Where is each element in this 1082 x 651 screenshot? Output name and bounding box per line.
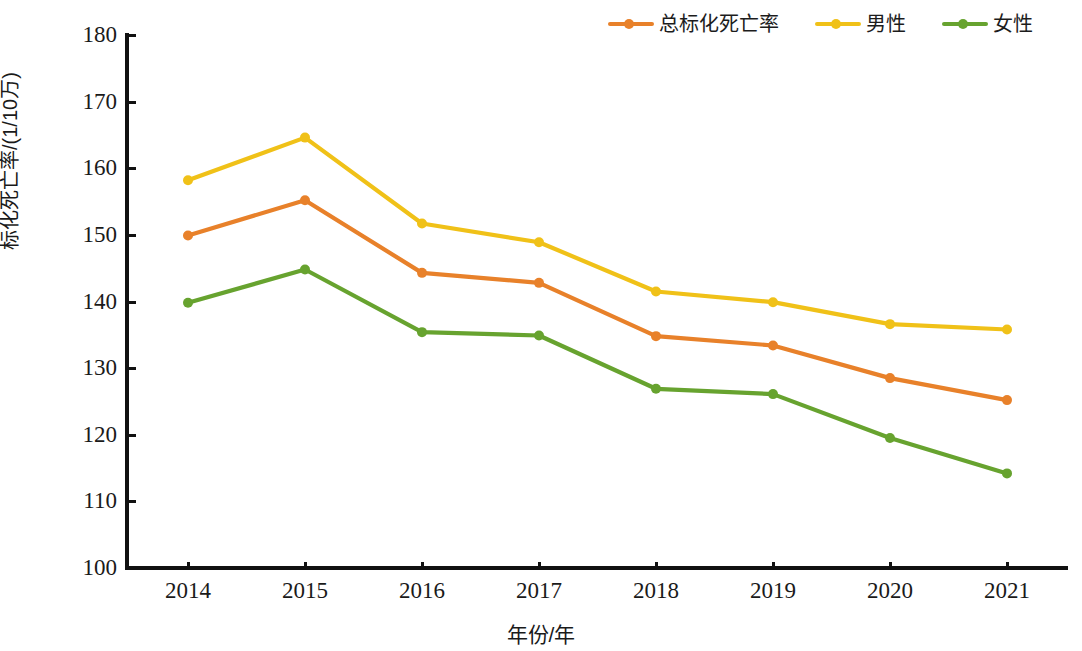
x-axis-tick-label: 2020	[840, 578, 940, 604]
y-axis-tick	[127, 301, 136, 304]
line-chart: 总标化死亡率男性女性 标化死亡率/(1/10万) 年份/年 1001101201…	[0, 0, 1082, 651]
legend-item[interactable]: 女性	[942, 14, 1033, 34]
x-axis-tick	[538, 562, 541, 570]
x-axis-tick	[421, 562, 424, 570]
x-axis-tick	[1006, 562, 1009, 570]
y-axis-tick-label: 160	[61, 156, 117, 179]
y-axis-tick	[127, 101, 136, 104]
x-axis-tick-label: 2014	[138, 578, 238, 604]
y-axis-tick	[127, 234, 136, 237]
y-axis-tick-label: 170	[61, 90, 117, 113]
x-axis-tick-label: 2018	[606, 578, 706, 604]
x-axis-tick	[187, 562, 190, 570]
legend-label: 男性	[866, 14, 906, 34]
y-axis-tick-label: 120	[61, 423, 117, 446]
y-axis-tick	[127, 434, 136, 437]
y-axis-tick	[127, 34, 136, 37]
legend-item[interactable]: 男性	[815, 14, 906, 34]
y-axis-tick	[127, 167, 136, 170]
y-axis-tick	[127, 500, 136, 503]
y-axis-tick-label: 150	[61, 223, 117, 246]
y-axis-tick	[127, 367, 136, 370]
y-axis-tick-label: 100	[61, 556, 117, 579]
legend-marker-icon	[608, 17, 654, 31]
x-axis-tick	[655, 562, 658, 570]
y-axis-title: 标化死亡率/(1/10万)	[0, 0, 23, 250]
x-axis-tick-label: 2016	[372, 578, 472, 604]
y-axis-tick-label: 130	[61, 356, 117, 379]
legend-label: 女性	[993, 14, 1033, 34]
legend-label: 总标化死亡率	[659, 14, 779, 34]
x-axis-tick	[772, 562, 775, 570]
y-axis-tick-label: 110	[61, 489, 117, 512]
y-axis-tick-label: 180	[61, 23, 117, 46]
x-axis-tick-label: 2021	[957, 578, 1057, 604]
y-axis-tick	[127, 567, 136, 570]
legend-marker-icon	[942, 17, 988, 31]
x-axis-tick-label: 2019	[723, 578, 823, 604]
y-axis-tick-label: 140	[61, 290, 117, 313]
x-axis-tick	[304, 562, 307, 570]
plot-area	[125, 35, 1068, 568]
legend-item[interactable]: 总标化死亡率	[608, 14, 779, 34]
x-axis-tick	[889, 562, 892, 570]
legend-marker-icon	[815, 17, 861, 31]
x-axis-tick-label: 2017	[489, 578, 589, 604]
x-axis-tick-label: 2015	[255, 578, 355, 604]
x-axis-title: 年份/年	[0, 618, 1082, 648]
